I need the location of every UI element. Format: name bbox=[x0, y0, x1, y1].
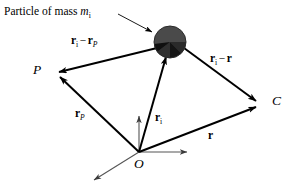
label-rP: rP bbox=[75, 108, 85, 120]
label-rP-subscript: P bbox=[80, 113, 85, 122]
label-ri-minus-rP-sub1: i bbox=[76, 40, 78, 49]
label-ri-minus-rP-operator: − bbox=[78, 34, 88, 46]
label-ri-minus-r-sub1: i bbox=[215, 58, 217, 67]
particle-mass-symbol: m bbox=[80, 5, 88, 17]
vector-diagram-canvas bbox=[0, 0, 298, 185]
label-r: r bbox=[208, 130, 213, 142]
particle-caption: Particle of mass mi bbox=[4, 6, 91, 18]
figure-container: Particle of mass mi ri−rP ri−r rP ri r P… bbox=[0, 0, 298, 185]
point-label-C: C bbox=[272, 94, 281, 108]
caption-pointer-arrow bbox=[118, 14, 152, 32]
label-ri-minus-rP-sub2: P bbox=[93, 40, 98, 49]
particle-caption-text: Particle of mass bbox=[4, 5, 77, 17]
label-ri-minus-r-r2: r bbox=[227, 52, 232, 64]
label-r-symbol: r bbox=[208, 129, 213, 141]
particle-mass-subscript: i bbox=[89, 11, 91, 20]
label-ri-subscript: i bbox=[160, 117, 162, 126]
point-label-O: O bbox=[134, 157, 144, 171]
label-ri-minus-r-operator: − bbox=[217, 52, 227, 64]
point-label-P: P bbox=[33, 63, 41, 77]
vector-rP-arrow bbox=[60, 77, 139, 152]
vector-ri-minus-rP-arrow bbox=[59, 48, 157, 72]
label-ri-minus-r: ri−r bbox=[210, 53, 232, 65]
label-ri-minus-rP: ri−rP bbox=[71, 35, 97, 47]
axis-depth bbox=[94, 152, 139, 180]
particle-sphere bbox=[154, 26, 186, 58]
label-ri: ri bbox=[155, 112, 162, 124]
vector-ri-arrow bbox=[139, 57, 166, 152]
